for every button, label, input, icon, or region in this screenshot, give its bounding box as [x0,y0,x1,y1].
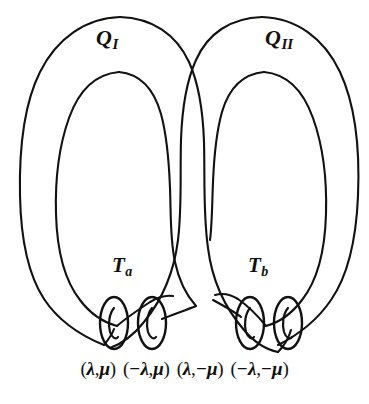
paren-close: ) [217,358,223,379]
coordinate-label-neg-lambda-mu: (−λ,μ) [123,358,170,380]
tube-label-t-b: Tb [248,255,268,279]
coord-first-value: λ [87,358,95,379]
paren-close: ) [110,358,116,379]
region-q-one-subscript: I [113,36,119,52]
tube-t-a-subscript: a [125,264,132,279]
ellipse-lambda-neg-mu [236,297,264,349]
region-q-two-base: Q [265,25,281,50]
right-loop-outer-right-edge [262,17,358,345]
coord-second-value: μ [153,358,163,379]
coordinate-label-lambda-mu: (λ,μ) [80,358,115,380]
ellipse-lambda-mu [100,297,128,349]
left-loop-inner-left-edge [56,72,119,326]
region-q-two-subscript: II [282,36,293,52]
left-loop-outer-edge [20,17,120,345]
tube-shoulder-a-right [162,306,196,319]
figure-root: QI QII Ta Tb (λ,μ) (−λ,μ) (λ,−μ) (−λ,−μ) [0,0,369,404]
paren-close: ) [282,358,288,379]
region-label-q-one: QI [96,27,118,52]
coordinate-label-neg-lambda-neg-mu: (−λ,−μ) [230,358,288,380]
ellipse-neg-lambda-neg-mu [274,297,302,349]
topology-diagram-canvas [0,0,369,404]
tube-t-b-subscript: b [261,264,268,279]
region-q-one-base: Q [96,25,112,50]
coord-first-value: −λ [129,358,149,379]
tube-t-b-base: T [248,253,261,277]
coord-first-value: λ [183,358,191,379]
coord-second-value: μ [99,358,109,379]
region-label-q-two: QII [265,27,293,52]
tube-t-a-base: T [112,253,125,277]
coordinate-label-row: (λ,μ) (−λ,μ) (λ,−μ) (−λ,−μ) [0,358,369,380]
coord-second-value: −μ [196,358,218,379]
tube-label-t-a: Ta [112,255,132,279]
right-loop-inner-left-edge [210,72,264,240]
coordinate-label-lambda-neg-mu: (λ,−μ) [177,358,224,380]
paren-close: ) [164,358,170,379]
right-loop-outer-left-edge [110,17,262,348]
coord-first-value: −λ [237,358,257,379]
coord-second-value: −μ [261,358,283,379]
right-loop-inner-right-edge [264,72,326,326]
